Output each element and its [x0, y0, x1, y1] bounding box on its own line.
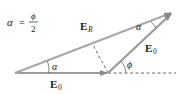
- svg-text:E: E: [80, 20, 87, 32]
- label-resultant-er: E R: [80, 20, 93, 34]
- svg-text:α: α: [7, 16, 13, 28]
- label-e0-angled: E 0: [145, 42, 157, 56]
- svg-text:E: E: [145, 42, 152, 54]
- svg-text:2: 2: [31, 24, 36, 34]
- angle-arc-phi: [121, 61, 126, 73]
- angle-arc-alpha-tip: [151, 22, 156, 28]
- label-phi: ϕ: [127, 59, 132, 70]
- svg-text:ϕ: ϕ: [31, 11, 36, 21]
- svg-text:=: =: [19, 17, 25, 28]
- alpha-formula: α = ϕ 2: [7, 11, 38, 34]
- phasor-diagram: α = ϕ 2 E 0 E 0 E R α α ϕ: [0, 0, 185, 94]
- svg-text:0: 0: [58, 83, 62, 92]
- svg-text:E: E: [50, 78, 57, 90]
- label-e0-horizontal: E 0: [50, 78, 62, 92]
- label-alpha-tip: α: [136, 21, 142, 32]
- perpendicular-dashed-line: [92, 43, 108, 73]
- label-alpha-origin: α: [52, 61, 58, 72]
- angle-arc-alpha-origin: [48, 61, 50, 73]
- svg-text:0: 0: [153, 47, 157, 56]
- svg-text:R: R: [87, 25, 93, 34]
